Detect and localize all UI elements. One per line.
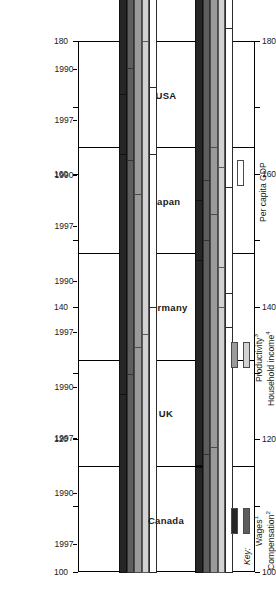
year-label-1990: 1990 <box>55 488 74 498</box>
chart-figure: USAJapanGermanyUKCanada 1990199719901997… <box>0 0 276 591</box>
bar-household-income-1997 <box>142 334 149 573</box>
value-label-160: 160 <box>54 169 68 179</box>
year-tick <box>73 175 77 176</box>
value-tick <box>255 572 260 573</box>
value-tick <box>255 41 260 42</box>
key-swatch-productivity <box>231 342 238 368</box>
year-label-1997: 1997 <box>55 221 74 231</box>
key-swatch-wages <box>231 508 238 534</box>
value-tick <box>255 439 260 440</box>
year-tick <box>73 226 77 227</box>
value-tick <box>255 240 260 241</box>
panel-canada: Canada <box>79 467 254 573</box>
year-label-1997: 1997 <box>55 115 74 125</box>
value-tick <box>255 307 260 308</box>
panel-label-uk: UK <box>159 408 173 419</box>
bar-compensation-1997 <box>127 374 134 573</box>
key-label-productivity: Productivity3 <box>252 334 264 382</box>
key-title: Key: <box>242 548 252 565</box>
key-label-wages: Wages1 <box>252 516 264 546</box>
bar-productivity-1997 <box>134 347 141 573</box>
key-label-per-capita-gdp: Per capita GDP <box>258 162 268 222</box>
value-tick <box>73 439 78 440</box>
panel-label-usa: USA <box>156 89 177 100</box>
key-swatch-per-capita-gdp <box>237 160 244 186</box>
bar-per-capita-gdp-1997 <box>149 307 156 573</box>
value-label-180: 180 <box>262 36 276 46</box>
year-label-1997: 1997 <box>55 539 74 549</box>
year-label-1997: 1997 <box>55 327 74 337</box>
value-label-100: 100 <box>54 567 68 577</box>
value-label-140: 140 <box>54 302 68 312</box>
year-label-1990: 1990 <box>55 64 74 74</box>
value-tick <box>73 240 78 241</box>
value-tick <box>255 506 260 507</box>
year-label-1990: 1990 <box>55 276 74 286</box>
year-tick <box>73 281 77 282</box>
key-footnote-marker: 1 <box>252 516 259 519</box>
value-tick <box>73 107 78 108</box>
value-tick <box>255 107 260 108</box>
value-tick <box>73 506 78 507</box>
year-tick <box>73 493 77 494</box>
value-tick <box>73 174 78 175</box>
year-tick <box>73 120 77 121</box>
bar-wages-1997 <box>119 394 126 573</box>
key-footnote-marker: 3 <box>252 334 259 337</box>
chart-stage: USAJapanGermanyUKCanada 1990199719901997… <box>0 0 276 591</box>
key-swatch-household-income <box>243 342 250 368</box>
year-tick <box>73 332 77 333</box>
value-label-120: 120 <box>262 434 276 444</box>
value-tick <box>73 572 78 573</box>
value-tick <box>73 41 78 42</box>
key-footnote-marker: 2 <box>264 511 271 514</box>
year-tick <box>73 387 77 388</box>
value-tick <box>73 373 78 374</box>
value-label-180: 180 <box>54 36 68 46</box>
panel-label-canada: Canada <box>148 514 184 525</box>
year-label-1990: 1990 <box>55 382 74 392</box>
value-label-120: 120 <box>54 434 68 444</box>
plot-area: USAJapanGermanyUKCanada <box>78 41 255 572</box>
year-tick <box>73 544 77 545</box>
value-label-140: 140 <box>262 302 276 312</box>
key-footnote-marker: 4 <box>264 331 271 334</box>
value-tick <box>73 307 78 308</box>
key-label-compensation: Compensation2 <box>264 511 276 570</box>
key-label-household-income: Household income4 <box>264 331 276 406</box>
year-tick <box>73 69 77 70</box>
key-swatch-compensation <box>243 508 250 534</box>
